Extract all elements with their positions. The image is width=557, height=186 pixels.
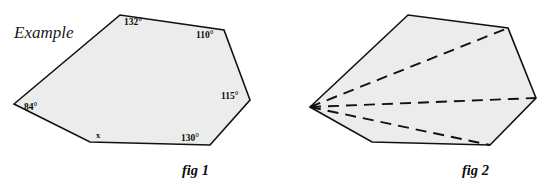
angle-label-84: 84° xyxy=(24,102,38,112)
angle-label-132: 132° xyxy=(124,17,142,27)
example-heading: Example xyxy=(13,23,74,42)
fig2-caption: fig 2 xyxy=(462,162,489,178)
geometry-figure-canvas: 132° 110° 115° 130° 84° x fig 1 Example … xyxy=(0,0,557,186)
fig1-caption: fig 1 xyxy=(182,162,209,178)
fig2-hexagon xyxy=(310,15,536,145)
angle-label-130: 130° xyxy=(181,133,199,143)
angle-label-115: 115° xyxy=(221,91,239,101)
figure-2-group: fig 2 xyxy=(310,15,536,178)
angle-label-110: 110° xyxy=(196,30,214,40)
